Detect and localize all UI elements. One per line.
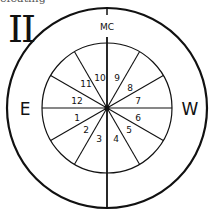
label-west: W	[182, 99, 199, 119]
label-mc: MC	[100, 22, 114, 32]
house-4: 4	[113, 134, 119, 144]
house-12: 12	[71, 96, 82, 106]
house-11: 11	[80, 79, 91, 89]
house-diagram: efeating II MC E W 1 2 3	[0, 0, 210, 214]
label-east: E	[20, 99, 31, 119]
house-5: 5	[126, 125, 132, 135]
center-dot	[105, 106, 110, 111]
house-7: 7	[135, 96, 141, 106]
house-2: 2	[83, 125, 89, 135]
house-10: 10	[94, 73, 106, 83]
chart-svg: MC E W 1 2 3 4 5 6 7 8 9 10 11 12	[0, 0, 210, 214]
house-9: 9	[114, 73, 120, 83]
house-6: 6	[135, 113, 141, 123]
house-8: 8	[127, 83, 133, 93]
house-1: 1	[74, 113, 80, 123]
house-3: 3	[96, 134, 102, 144]
